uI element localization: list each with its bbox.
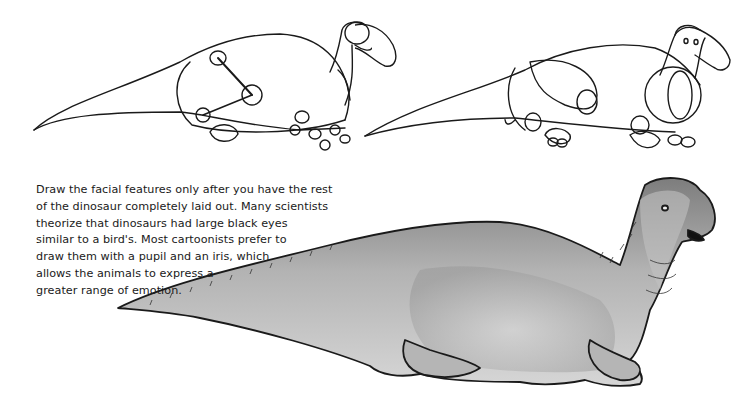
- caption-line: similar to a bird's. Most cartoonists pr…: [36, 232, 376, 249]
- instruction-text: Draw the facial features only after you …: [36, 182, 376, 300]
- caption-line: draw them with a pupil and an iris, whic…: [36, 249, 376, 266]
- step-2-construction-sketch: [355, 0, 744, 165]
- caption-line: greater range of emotion.: [36, 283, 376, 300]
- caption-line: allows the animals to express a: [36, 266, 376, 283]
- step-1-skeleton-sketch: [0, 0, 372, 165]
- caption-line: theorize that dinosaurs had large black …: [36, 216, 376, 233]
- caption-line: Draw the facial features only after you …: [36, 182, 376, 199]
- caption-line: of the dinosaur completely laid out. Man…: [36, 199, 376, 216]
